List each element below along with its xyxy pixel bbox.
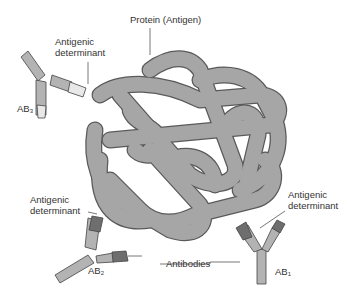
antigen-antibody-diagram bbox=[0, 0, 352, 298]
ab1-subscript: 1 bbox=[288, 271, 291, 277]
ab1-label: AB1 bbox=[275, 266, 291, 280]
ab3-subscript: 3 bbox=[30, 108, 33, 114]
label-line2: determinant bbox=[288, 200, 338, 211]
ab3-prefix: AB bbox=[17, 103, 30, 114]
protein-antigen bbox=[94, 59, 279, 233]
ab2-label: AB2 bbox=[88, 265, 104, 279]
ab3-label: AB3 bbox=[17, 103, 33, 117]
protein-antigen-label: Protein (Antigen) bbox=[130, 14, 201, 25]
label-line1: Antigenic bbox=[55, 36, 94, 47]
antigenic-determinant-label-left: Antigenic determinant bbox=[30, 194, 80, 216]
label-line2: determinant bbox=[30, 205, 80, 216]
label-line2: determinant bbox=[55, 47, 105, 58]
antigenic-determinant-label-right: Antigenic determinant bbox=[288, 189, 338, 211]
label-line1: Antigenic bbox=[288, 189, 327, 200]
ab2-subscript: 2 bbox=[101, 270, 104, 276]
label-line1: Antigenic bbox=[30, 194, 69, 205]
ab2-prefix: AB bbox=[88, 265, 101, 276]
antigenic-determinant-label-top: Antigenic determinant bbox=[55, 36, 105, 58]
antibodies-label: Antibodies bbox=[166, 258, 210, 269]
ab1-prefix: AB bbox=[275, 266, 288, 277]
